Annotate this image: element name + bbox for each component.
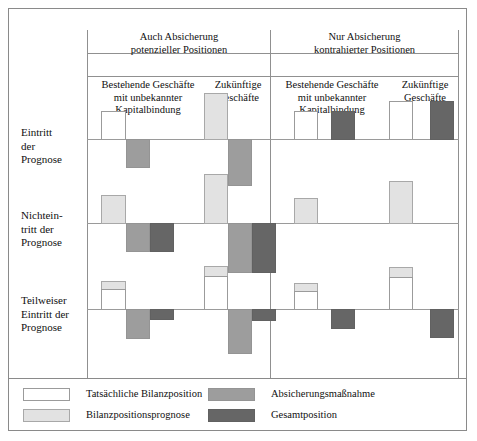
column-group-header-2-line1: Nur Absicherung	[272, 31, 457, 44]
bar-r1c2-hedge	[228, 139, 252, 186]
bar-r1c2-forecast	[204, 93, 228, 140]
bar-r3c3-actual	[294, 291, 318, 310]
column-header-3-line1: Bestehende Geschäfte	[273, 79, 391, 92]
legend-swatch-actual	[23, 388, 70, 401]
bar-r3c1-hedge	[126, 309, 150, 339]
axis-right-border	[458, 30, 459, 380]
column-group-header-1-line2: potenzieller Positionen	[89, 44, 269, 57]
row-label-3: Teilweiser Eintritt der Prognose	[21, 294, 89, 335]
bar-r1c1-actual	[101, 111, 126, 140]
row-label-1-line1: Eintritt	[21, 126, 85, 140]
row-label-2-line1: Nichtein-	[21, 209, 85, 223]
column-group-header-1: Auch Absicherung potenzieller Positionen	[89, 31, 269, 56]
row-label-3-line1: Teilweiser	[21, 294, 89, 308]
header-column-rule	[87, 76, 459, 77]
figure-frame: Auch Absicherung potenzieller Positionen…	[8, 8, 467, 431]
bar-r2c2-total	[252, 223, 276, 273]
bar-r1c1-hedge	[126, 139, 150, 168]
bar-r3c2-actual	[204, 276, 228, 310]
bar-r2c3-forecast	[294, 198, 318, 224]
bar-r3c4-actual	[389, 277, 413, 310]
bar-r3c1-total	[150, 309, 174, 320]
panel-divider	[270, 30, 271, 380]
row-label-3-line3: Prognose	[21, 321, 89, 335]
bar-r2c2-hedge	[228, 223, 252, 273]
bar-r2c2-forecast	[204, 174, 228, 224]
legend-label-forecast: Bilanzpositionsprognose	[86, 408, 190, 421]
row-label-2-line2: tritt der	[21, 223, 85, 237]
column-group-header-1-line1: Auch Absicherung	[89, 31, 269, 44]
bar-r1c3-total	[331, 111, 355, 140]
bar-r1c4-total	[430, 101, 454, 140]
bar-r2c1-total	[150, 223, 174, 252]
legend-label-total: Gesamtposition	[271, 408, 337, 421]
row-label-1: Eintritt der Prognose	[21, 126, 85, 167]
bar-r3c2-hedge	[228, 309, 252, 354]
legend-swatch-hedge	[208, 388, 255, 401]
row-label-1-line2: der	[21, 140, 85, 154]
bar-r1c3-actual	[294, 111, 318, 140]
bar-r3c4-total	[430, 309, 454, 338]
column-header-2-line1: Zukünftige	[207, 79, 269, 92]
column-header-3-line2: mit unbekannter	[273, 92, 391, 105]
legend-label-actual: Tatsächliche Bilanzposition	[86, 387, 202, 400]
bar-r3c2-total	[252, 309, 276, 321]
bar-r2c1-forecast	[101, 195, 126, 224]
column-header-1-line1: Bestehende Geschäfte	[89, 79, 207, 92]
legend-label-hedge: Absicherungsmaßnahme	[271, 387, 375, 400]
row-label-2: Nichtein- tritt der Prognose	[21, 209, 85, 250]
row-label-1-line3: Prognose	[21, 153, 85, 167]
column-header-1-line2: mit unbekannter	[89, 92, 207, 105]
row-label-2-line3: Prognose	[21, 236, 85, 250]
legend-swatch-total	[208, 409, 255, 422]
column-group-header-2: Nur Absicherung kontrahierter Positionen	[272, 31, 457, 56]
bar-r2c1-hedge	[126, 223, 150, 252]
column-group-header-2-line2: kontrahierter Positionen	[272, 44, 457, 57]
legend: Tatsächliche Bilanzposition Bilanzpositi…	[8, 378, 467, 431]
bar-r1c4-actual	[389, 101, 413, 140]
bar-r3c1-actual	[101, 289, 126, 310]
column-header-4-line1: Zukünftige	[393, 79, 457, 92]
bar-r2c4-forecast	[389, 181, 413, 224]
row-label-3-line2: Eintritt der	[21, 308, 89, 322]
bar-r3c3-total	[331, 309, 355, 329]
legend-swatch-forecast	[23, 409, 70, 422]
